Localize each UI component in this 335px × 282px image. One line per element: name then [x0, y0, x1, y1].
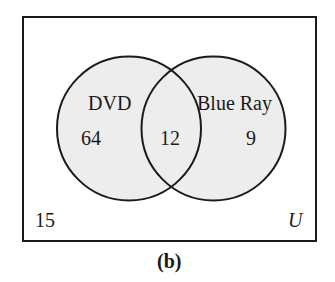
blueray-set-label: Blue Ray	[197, 93, 272, 113]
intersection-count: 12	[160, 128, 180, 148]
dvd-set-label: DVD	[88, 93, 131, 113]
blueray-only-count: 9	[246, 128, 256, 148]
venn-figure: DVD Blue Ray 64 12 9 15 U (b)	[0, 0, 335, 282]
dvd-only-count: 64	[81, 128, 101, 148]
universe-label: U	[288, 210, 302, 230]
outside-count: 15	[35, 210, 55, 230]
figure-caption: (b)	[157, 251, 181, 271]
